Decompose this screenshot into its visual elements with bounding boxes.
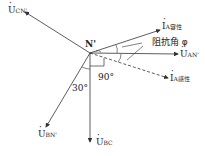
label-ubn: UBN' [38,130,57,139]
ucn-phasor [25,12,90,53]
impedance-arc-upper [116,45,117,53]
label-origin: N' [85,40,96,49]
label-uan: UAN' [180,50,199,59]
angle-30-arc [82,67,90,69]
ia-capacitive-phasor [90,30,160,53]
label-angle-30: 30° [72,84,88,93]
impedance-arc-lower [118,54,121,62]
callout-line-lower [127,46,143,60]
right-angle-marker [90,58,104,66]
label-ucn: UCN' [8,6,27,15]
callout-line-upper [122,43,142,47]
label-ubc: UBC [96,138,113,147]
label-ia-capacitive: IA容性 [162,22,182,31]
origin-arc [96,51,101,52]
label-angle-90: 90° [98,73,114,82]
label-ia-inductive: IA感性 [170,74,190,83]
